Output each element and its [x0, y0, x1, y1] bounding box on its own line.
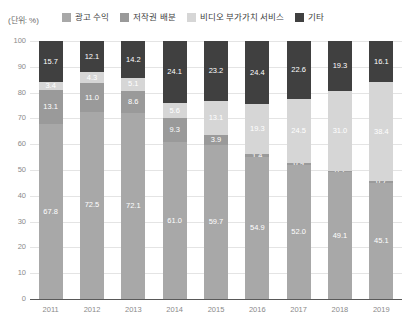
bar-value-label: 22.6	[291, 66, 306, 74]
bar-segment[interactable]: 3.9	[204, 135, 228, 145]
bar-segment[interactable]: 15.7	[39, 41, 63, 82]
bar-value-label: 5.6	[169, 107, 179, 115]
unit-label: (단위: %)	[8, 14, 39, 25]
bar-segment[interactable]: 24.4	[245, 41, 269, 104]
legend-label-copyright: 저작권 배분	[133, 13, 175, 22]
bar-value-label: 52.0	[291, 228, 306, 236]
bar-value-label: 16.1	[374, 58, 389, 66]
y-axis: 1009080706050403020100	[0, 41, 30, 299]
chart-legend: 광고 수익저작권 배분비디오 부가가치 서비스기타	[62, 13, 324, 22]
x-tick-label-2011: 2011	[39, 301, 63, 321]
bar-segment[interactable]: 14.2	[121, 41, 145, 78]
bar-segment[interactable]: 49.1	[328, 172, 352, 299]
bar-value-label: 9.3	[169, 126, 179, 134]
bar-segment[interactable]: 19.3	[245, 104, 269, 154]
y-tick-label: 80	[18, 89, 26, 97]
bar-segment[interactable]: 54.9	[245, 157, 269, 299]
bar-value-label: 19.3	[250, 125, 265, 133]
x-tick-label-2015: 2015	[204, 301, 228, 321]
chart-header: (단위: %) 광고 수익저작권 배분비디오 부가가치 서비스기타	[0, 0, 410, 32]
legend-swatch-copyright	[120, 13, 129, 22]
bar-segment[interactable]: 23.2	[204, 41, 228, 101]
legend-swatch-other	[295, 13, 304, 22]
bar-value-label: 12.1	[85, 53, 100, 61]
y-tick-label: 70	[18, 115, 26, 123]
bar-segment[interactable]: 11.0	[80, 83, 104, 111]
bar-column-2016[interactable]: 24.419.31.454.9	[245, 41, 269, 299]
bar-segment[interactable]: 61.0	[163, 142, 187, 299]
bar-segment[interactable]: 59.7	[204, 145, 228, 299]
bar-segment[interactable]: 67.8	[39, 124, 63, 299]
bar-segment[interactable]: 24.5	[287, 99, 311, 162]
x-tick-label-2019: 2019	[369, 301, 393, 321]
bar-value-label: 8.6	[128, 98, 138, 106]
legend-label-video_vas: 비디오 부가가치 서비스	[200, 13, 285, 22]
bar-value-label: 13.1	[43, 103, 58, 111]
bar-segment[interactable]: 52.0	[287, 165, 311, 299]
bar-segment[interactable]: 13.1	[204, 101, 228, 135]
bar-column-2013[interactable]: 14.25.18.672.1	[121, 41, 145, 299]
bar-value-label: 24.1	[167, 68, 182, 76]
plot-area: 15.73.413.167.812.14.311.072.514.25.18.6…	[30, 41, 402, 299]
bar-value-label: 3.4	[45, 82, 55, 90]
bar-segment[interactable]: 38.4	[369, 82, 393, 181]
bar-value-label: 61.0	[167, 217, 182, 225]
bar-value-label: 38.4	[374, 128, 389, 136]
bar-column-2012[interactable]: 12.14.311.072.5	[80, 41, 104, 299]
bar-column-2014[interactable]: 24.15.69.361.0	[163, 41, 187, 299]
bar-value-label: 24.4	[250, 69, 265, 77]
bar-column-2011[interactable]: 15.73.413.167.8	[39, 41, 63, 299]
bar-segment[interactable]: 72.1	[121, 113, 145, 299]
bar-value-label: 24.5	[291, 127, 306, 135]
bar-value-label: 15.7	[43, 58, 58, 66]
bar-segment[interactable]: 22.6	[287, 41, 311, 99]
x-tick-label-2018: 2018	[328, 301, 352, 321]
bar-series-container: 15.73.413.167.812.14.311.072.514.25.18.6…	[30, 41, 402, 299]
legend-swatch-video_vas	[187, 13, 196, 22]
bar-value-label: 19.3	[333, 62, 348, 70]
x-tick-label-2014: 2014	[163, 301, 187, 321]
bar-segment[interactable]: 45.1	[369, 183, 393, 299]
bar-segment[interactable]: 5.6	[163, 103, 187, 117]
bar-value-label: 72.1	[126, 202, 141, 210]
x-tick-label-2017: 2017	[287, 301, 311, 321]
bar-value-label: 67.8	[43, 208, 58, 216]
bar-column-2019[interactable]: 16.138.40.745.1	[369, 41, 393, 299]
bar-column-2017[interactable]: 22.624.50.952.0	[287, 41, 311, 299]
y-tick-label: 10	[18, 269, 26, 277]
bar-segment[interactable]: 9.3	[163, 118, 187, 142]
bar-value-label: 3.9	[211, 136, 221, 144]
bar-segment[interactable]: 31.0	[328, 91, 352, 171]
bar-value-label: 5.1	[128, 80, 138, 88]
bar-segment[interactable]: 4.3	[80, 72, 104, 83]
legend-item-other[interactable]: 기타	[295, 13, 324, 22]
x-tick-label-2012: 2012	[80, 301, 104, 321]
legend-item-ad_revenue[interactable]: 광고 수익	[62, 13, 109, 22]
bar-value-label: 13.1	[209, 114, 224, 122]
bar-column-2015[interactable]: 23.213.13.959.7	[204, 41, 228, 299]
legend-item-video_vas[interactable]: 비디오 부가가치 서비스	[187, 13, 285, 22]
y-tick-label: 40	[18, 192, 26, 200]
bar-segment[interactable]: 3.4	[39, 82, 63, 91]
bar-value-label: 23.2	[209, 67, 224, 75]
bar-segment[interactable]: 12.1	[80, 41, 104, 72]
y-tick-label: 30	[18, 218, 26, 226]
bar-segment[interactable]: 72.5	[80, 112, 104, 299]
bar-segment[interactable]: 8.6	[121, 91, 145, 113]
legend-item-copyright[interactable]: 저작권 배분	[120, 13, 175, 22]
bar-segment[interactable]: 13.1	[39, 90, 63, 124]
bar-column-2018[interactable]: 19.331.00.749.1	[328, 41, 352, 299]
bar-value-label: 14.2	[126, 56, 141, 64]
bar-segment[interactable]: 19.3	[328, 41, 352, 91]
bar-value-label: 45.1	[374, 237, 389, 245]
legend-swatch-ad_revenue	[62, 13, 71, 22]
bar-value-label: 11.0	[85, 94, 99, 102]
y-tick-label: 60	[18, 140, 26, 148]
legend-label-ad_revenue: 광고 수익	[75, 13, 109, 22]
x-axis: 201120122013201420152016201720182019	[30, 301, 402, 321]
bar-segment[interactable]: 24.1	[163, 41, 187, 103]
x-tick-label-2016: 2016	[245, 301, 269, 321]
bar-segment[interactable]: 5.1	[121, 78, 145, 91]
legend-label-other: 기타	[308, 13, 324, 22]
bar-segment[interactable]: 16.1	[369, 41, 393, 82]
